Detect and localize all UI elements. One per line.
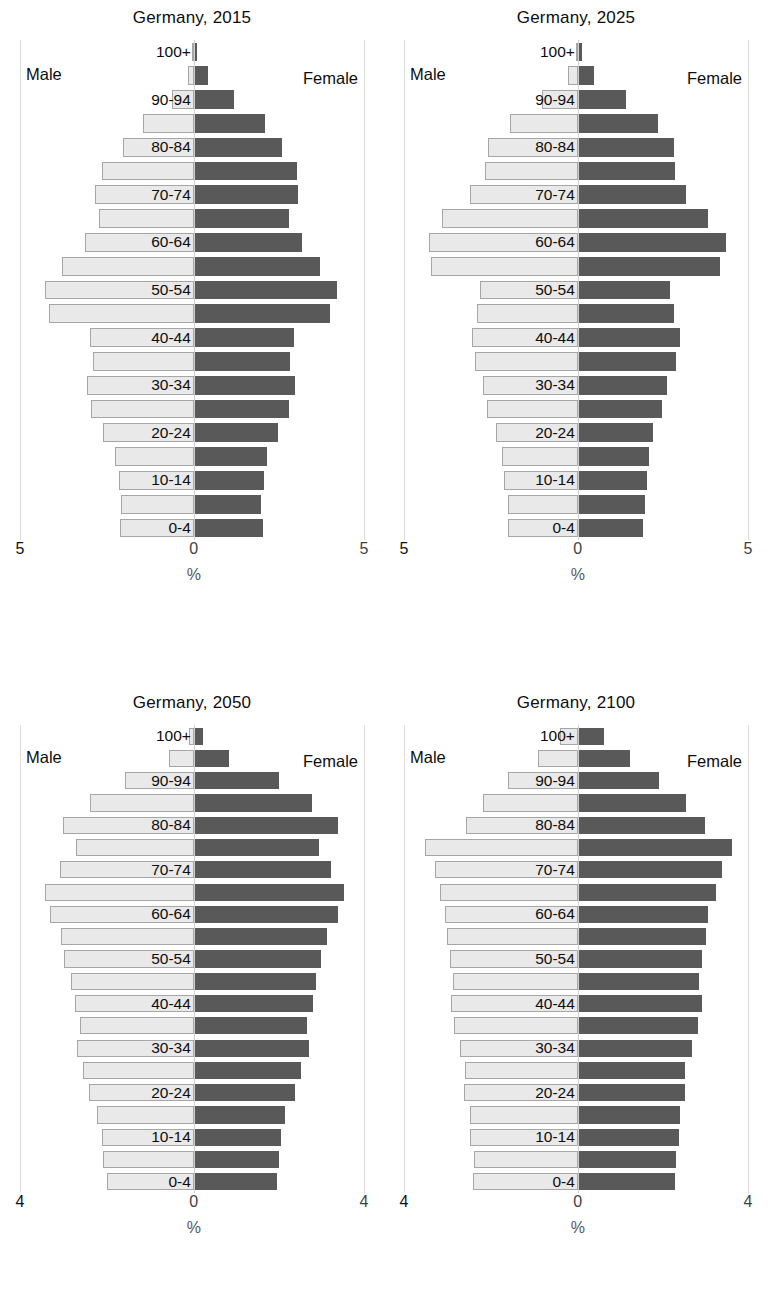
panel-germany-2050: Germany, 2050 Male Female 100+90-9480-84… — [0, 673, 384, 1307]
pyramid-figure-grid: Germany, 2015 Male Female 100+90-9480-84… — [0, 0, 768, 1307]
pyramid-row: 40-44 — [396, 992, 756, 1014]
female-bar — [578, 728, 604, 745]
x-axis-unit-label: % — [571, 1219, 585, 1237]
pyramid-row: 50-54 — [12, 278, 372, 302]
male-bar — [85, 233, 193, 252]
pyramid-row: 0-4 — [396, 1171, 756, 1193]
pyramid-row: 20-24 — [396, 421, 756, 445]
male-bar — [49, 304, 194, 323]
female-bar — [578, 1017, 698, 1034]
female-bar — [194, 114, 265, 133]
boundary-gridline — [364, 725, 365, 1193]
male-bar — [477, 304, 578, 323]
pyramid-row — [12, 1104, 372, 1126]
female-bar — [578, 1062, 685, 1079]
pyramid-row — [12, 1015, 372, 1037]
female-bar — [194, 861, 331, 878]
female-bar — [578, 400, 662, 419]
male-bar — [460, 1040, 578, 1057]
pyramid-row: 0-4 — [12, 516, 372, 540]
male-bar — [429, 233, 578, 252]
boundary-gridline — [20, 725, 21, 1193]
pyramid-row — [12, 792, 372, 814]
bar-rows: 100+90-9480-8470-7460-6450-5440-4430-342… — [12, 725, 372, 1193]
center-axis-line — [194, 40, 195, 540]
female-bar — [194, 257, 321, 276]
pyramid-row: 40-44 — [12, 992, 372, 1014]
pyramid-row — [396, 836, 756, 858]
pyramid-row — [12, 492, 372, 516]
female-bar — [194, 728, 203, 745]
male-bar — [473, 1173, 578, 1190]
male-bar — [470, 1129, 578, 1146]
female-bar — [194, 185, 298, 204]
pyramid-row: 100+ — [12, 725, 372, 747]
pyramid-row: 50-54 — [396, 278, 756, 302]
boundary-gridline — [20, 40, 21, 540]
pyramid-row: 50-54 — [396, 948, 756, 970]
male-bar — [485, 162, 578, 181]
pyramid-row — [396, 111, 756, 135]
x-axis-tick: 5 — [360, 540, 369, 558]
female-bar — [578, 233, 726, 252]
female-bar — [578, 906, 708, 923]
female-bar — [194, 138, 283, 157]
male-bar — [431, 257, 578, 276]
female-bar — [194, 162, 297, 181]
male-bar — [61, 928, 194, 945]
pyramid-row — [396, 159, 756, 183]
boundary-gridline — [404, 725, 405, 1193]
male-bar — [450, 950, 578, 967]
female-bar — [578, 423, 654, 442]
male-bar — [472, 328, 578, 347]
male-bar — [440, 884, 578, 901]
pyramid-row: 10-14 — [396, 1126, 756, 1148]
pyramid-row: 10-14 — [12, 469, 372, 493]
female-legend-label: Female — [303, 752, 358, 771]
female-bar — [578, 861, 722, 878]
pyramid-row: 60-64 — [12, 230, 372, 254]
male-bar — [75, 995, 194, 1012]
pyramid-row — [12, 970, 372, 992]
male-bar — [169, 750, 194, 767]
pyramid-row: 80-84 — [12, 135, 372, 159]
female-bar — [194, 1129, 282, 1146]
pyramid-row: 100+ — [12, 40, 372, 64]
pyramid-row: 90-94 — [12, 88, 372, 112]
male-bar — [90, 794, 194, 811]
pyramid-row — [396, 1015, 756, 1037]
panel-germany-2100: Germany, 2100 Male Female 100+90-9480-84… — [384, 673, 768, 1307]
female-bar — [194, 839, 320, 856]
male-bar — [45, 884, 194, 901]
pyramid-row: 30-34 — [12, 1037, 372, 1059]
x-axis: 505 — [384, 540, 768, 566]
pyramid-row — [396, 397, 756, 421]
x-axis: 505 — [0, 540, 384, 566]
female-bar — [194, 884, 344, 901]
male-bar — [502, 447, 578, 466]
male-legend-label: Male — [26, 748, 62, 767]
female-bar — [578, 519, 643, 538]
male-bar — [483, 794, 578, 811]
pyramid-row — [12, 836, 372, 858]
pyramid-row: 90-94 — [396, 770, 756, 792]
panel-title: Germany, 2025 — [384, 0, 768, 28]
pyramid-row — [12, 881, 372, 903]
male-bar — [504, 471, 578, 490]
pyramid-row: 30-34 — [396, 373, 756, 397]
male-bar — [447, 928, 577, 945]
male-bar — [115, 447, 194, 466]
male-bar — [119, 471, 194, 490]
x-axis-tick: 5 — [400, 540, 409, 558]
female-bar — [194, 772, 279, 789]
male-bar — [474, 1151, 577, 1168]
female-bar — [194, 1040, 309, 1057]
male-bar — [475, 352, 578, 371]
pyramid-row: 60-64 — [396, 903, 756, 925]
female-bar — [194, 973, 317, 990]
male-legend-label: Male — [410, 748, 446, 767]
male-bar — [454, 1017, 578, 1034]
female-bar — [578, 772, 660, 789]
pyramid-row: 50-54 — [12, 948, 372, 970]
male-bar — [480, 281, 577, 300]
